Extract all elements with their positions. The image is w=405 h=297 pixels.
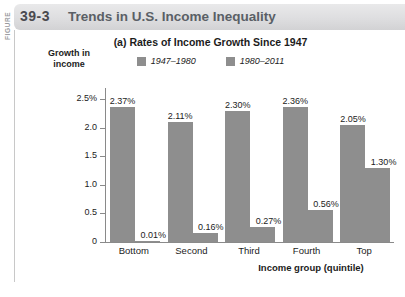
legend-label: 1947–1980	[151, 56, 196, 66]
bar[interactable]: 0.27%	[250, 227, 275, 242]
bar[interactable]: 2.05%	[340, 125, 365, 242]
bar-group: 2.11%0.16%	[168, 88, 218, 242]
plot-area: 2.37%0.01%2.11%0.16%2.30%0.27%2.36%0.56%…	[105, 88, 393, 242]
chart-subtitle: (a) Rates of Income Growth Since 1947	[15, 36, 405, 48]
figure-word-label: FIGURE	[1, 6, 14, 46]
bar[interactable]: 2.37%	[110, 107, 135, 242]
bar[interactable]: 2.30%	[225, 111, 250, 242]
y-tick-label: 2.5%	[53, 93, 97, 103]
y-tick-label: 0	[53, 236, 97, 246]
bar-value-label: 0.27%	[256, 216, 282, 226]
y-tick-label: 0.5	[53, 207, 97, 217]
chart-panel: (a) Rates of Income Growth Since 1947 19…	[14, 30, 405, 282]
bar-value-label: 0.16%	[198, 222, 224, 232]
y-tick-mark	[100, 242, 106, 243]
legend-label: 1980–2011	[240, 56, 284, 66]
bar[interactable]: 0.16%	[193, 233, 218, 242]
bar[interactable]: 0.01%	[135, 241, 160, 242]
y-axis-title: Growth in income	[33, 48, 105, 70]
bar-value-label: 0.01%	[140, 230, 166, 240]
y-tick-label: 1.5	[53, 150, 97, 160]
bar-group: 2.37%0.01%	[110, 88, 160, 242]
x-axis-line	[105, 242, 394, 243]
bar-group: 2.30%0.27%	[225, 88, 275, 242]
legend-swatch-icon	[137, 57, 146, 66]
legend-item-series-2: 1980–2011	[226, 56, 284, 66]
bar-value-label: 1.30%	[371, 157, 397, 167]
bar-value-label: 2.37%	[110, 96, 136, 106]
bar-value-label: 2.05%	[340, 114, 366, 124]
figure-header: FIGURE 39-3 Trends in U.S. Income Inequa…	[0, 4, 405, 30]
bar[interactable]: 0.56%	[308, 210, 333, 242]
x-tick-label: Top	[324, 245, 404, 256]
bar-value-label: 2.30%	[225, 100, 251, 110]
page-title: Trends in U.S. Income Inequality	[68, 9, 276, 24]
y-tick-label: 1.0	[53, 179, 97, 189]
y-tick-label: 2.0	[53, 122, 97, 132]
legend-item-series-1: 1947–1980	[137, 56, 196, 66]
x-axis-title: Income group (quintile)	[220, 262, 402, 273]
bar[interactable]: 2.11%	[168, 122, 193, 242]
bar[interactable]: 2.36%	[283, 107, 308, 242]
bar-group: 2.05%1.30%	[340, 88, 390, 242]
bar-value-label: 0.56%	[313, 199, 339, 209]
bar-value-label: 2.11%	[168, 111, 193, 121]
bar-value-label: 2.36%	[283, 96, 309, 106]
bar-group: 2.36%0.56%	[283, 88, 333, 242]
legend-swatch-icon	[226, 57, 235, 66]
figure-number: 39-3	[20, 8, 50, 24]
bar[interactable]: 1.30%	[365, 168, 390, 242]
